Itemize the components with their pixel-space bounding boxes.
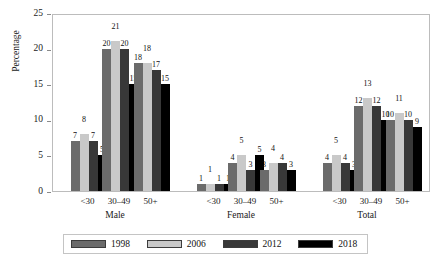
bar-1998-male-2: 18 xyxy=(134,15,143,191)
bar-1998-total-1: 12 xyxy=(354,15,363,191)
x-axis-group-label-female: Female xyxy=(178,210,304,220)
bar-2018-total-2: 9 xyxy=(413,15,422,191)
bar-1998-total-0: 4 xyxy=(323,15,332,191)
bar-1998-male-0: 7 xyxy=(71,15,80,191)
bar-group-total-2: 1011109 xyxy=(381,15,427,191)
bar-group-female-2: 3443 xyxy=(255,15,301,191)
y-tick-mark xyxy=(47,50,51,51)
bar-2012-male-2: 17 xyxy=(152,15,161,191)
bar-rect xyxy=(143,63,152,191)
bar-value-label: 3 xyxy=(280,160,303,169)
bar-rect xyxy=(134,63,143,191)
plot-area: 7875202120151818171511114535344345431213… xyxy=(52,14,430,192)
bar-2018-male-2: 15 xyxy=(161,15,170,191)
bar-1998-female-2: 3 xyxy=(260,15,269,191)
bar-rect xyxy=(395,113,404,191)
bar-rect xyxy=(206,184,215,191)
legend-swatch-1998 xyxy=(71,240,106,248)
legend-label: 2012 xyxy=(263,239,282,249)
bar-rect xyxy=(413,127,422,191)
bar-value-label: 15 xyxy=(154,74,177,83)
bar-2006-male-2: 18 xyxy=(143,15,152,191)
x-axis-age-label-male-2: 50+ xyxy=(126,196,176,206)
x-axis-group-label-male: Male xyxy=(52,210,178,220)
bar-2006-total-0: 5 xyxy=(332,15,341,191)
y-tick-label: 0 xyxy=(3,186,43,196)
y-tick-label: 15 xyxy=(3,79,43,89)
bar-2018-female-2: 3 xyxy=(287,15,296,191)
bar-1998-total-2: 10 xyxy=(386,15,395,191)
bar-rect xyxy=(269,163,278,191)
y-tick-mark xyxy=(47,14,51,15)
legend-item-2006[interactable]: 2006 xyxy=(140,239,216,249)
bar-rect xyxy=(260,170,269,191)
bar-1998-male-1: 20 xyxy=(102,15,111,191)
bar-rect xyxy=(404,120,413,191)
bar-rect xyxy=(228,163,237,191)
bars-container: 7875202120151818171511114535344345431213… xyxy=(53,15,429,191)
y-tick-mark xyxy=(47,85,51,86)
legend-swatch-2012 xyxy=(223,240,258,248)
bar-rect xyxy=(363,98,372,191)
bar-group-male-2: 18181715 xyxy=(129,15,175,191)
y-tick-label: 25 xyxy=(3,8,43,18)
bar-rect xyxy=(354,106,363,191)
bar-rect xyxy=(386,120,395,191)
bar-1998-female-1: 4 xyxy=(228,15,237,191)
y-tick-mark xyxy=(47,192,51,193)
legend-item-2018[interactable]: 2018 xyxy=(291,239,367,249)
legend-swatch-2018 xyxy=(298,240,333,248)
bar-2006-total-2: 11 xyxy=(395,15,404,191)
legend-label: 2018 xyxy=(338,239,357,249)
bar-rect xyxy=(71,141,80,191)
bar-2006-female-2: 4 xyxy=(269,15,278,191)
bar-rect xyxy=(102,49,111,191)
bar-2006-female-0: 1 xyxy=(206,15,215,191)
bar-rect xyxy=(111,41,120,191)
legend-label: 2006 xyxy=(187,239,206,249)
bar-2012-total-2: 10 xyxy=(404,15,413,191)
bar-rect xyxy=(161,84,170,191)
legend-label: 1998 xyxy=(111,239,130,249)
chart-legend: 1998200620122018 xyxy=(63,234,368,254)
x-axis-group-label-total: Total xyxy=(304,210,430,220)
chart-figure: Percentage 0510152025 787520212015181817… xyxy=(0,0,432,262)
y-tick-label: 5 xyxy=(3,150,43,160)
y-tick-mark xyxy=(47,156,51,157)
bar-rect xyxy=(287,170,296,191)
y-tick-label: 20 xyxy=(3,43,43,53)
bar-rect xyxy=(197,184,206,191)
bar-rect xyxy=(152,70,161,191)
bar-rect xyxy=(80,134,89,191)
y-tick-label: 10 xyxy=(3,114,43,124)
bar-value-label: 9 xyxy=(406,117,429,126)
legend-swatch-2006 xyxy=(147,240,182,248)
y-tick-mark xyxy=(47,121,51,122)
legend-item-2012[interactable]: 2012 xyxy=(216,239,292,249)
x-axis-age-label-female-2: 50+ xyxy=(252,196,302,206)
bar-2006-male-0: 8 xyxy=(80,15,89,191)
legend-item-1998[interactable]: 1998 xyxy=(64,239,140,249)
bar-rect xyxy=(323,163,332,191)
x-axis-age-label-total-2: 50+ xyxy=(378,196,428,206)
